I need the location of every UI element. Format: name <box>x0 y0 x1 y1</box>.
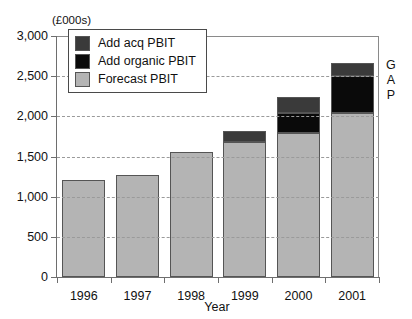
y-axis-tick-label: 1,500 <box>17 150 48 164</box>
y-axis-tick-label: 3,000 <box>17 29 48 43</box>
y-axis-tick <box>51 237 57 238</box>
bar-segment-forecast-pbit <box>116 175 159 277</box>
y-axis-tick-label: 500 <box>27 230 48 244</box>
bar-segment-forecast-pbit <box>223 142 266 277</box>
bar-segment-add-acq-pbit <box>277 97 320 113</box>
gridline <box>57 116 379 117</box>
y-axis-tick <box>51 116 57 117</box>
y-axis-tick-label: 2,000 <box>17 109 48 123</box>
bar-1998 <box>170 152 213 277</box>
y-axis-unit-caption: (£000s) <box>52 14 91 26</box>
gap-annotation-letter: P <box>387 88 395 103</box>
legend-item: Forecast PBIT <box>75 70 196 88</box>
x-axis-tick <box>379 277 380 283</box>
bar-segment-forecast-pbit <box>62 180 105 277</box>
x-axis-tick <box>325 277 326 283</box>
gridline <box>57 157 379 158</box>
legend-item: Add acq PBIT <box>75 34 196 52</box>
legend-swatch-icon <box>75 36 90 51</box>
x-axis-tick <box>272 277 273 283</box>
chart-title-cropped <box>0 0 412 5</box>
y-axis-tick <box>51 76 57 77</box>
legend-item: Add organic PBIT <box>75 52 196 70</box>
y-axis-tick <box>51 157 57 158</box>
bar-segment-forecast-pbit <box>170 152 213 277</box>
y-axis-tick-label: 1,000 <box>17 190 48 204</box>
x-axis-tick <box>57 277 58 283</box>
legend-item-label: Add organic PBIT <box>98 54 196 68</box>
x-axis-tick <box>164 277 165 283</box>
bar-1999 <box>223 131 266 277</box>
gridline <box>57 237 379 238</box>
legend-swatch-icon <box>75 72 90 87</box>
gridline <box>57 197 379 198</box>
bar-2001 <box>331 63 374 277</box>
bar-2000 <box>277 97 320 277</box>
bar-segment-add-acq-pbit <box>223 131 266 143</box>
legend-item-label: Forecast PBIT <box>98 72 178 86</box>
bar-segment-add-acq-pbit <box>331 63 374 76</box>
y-axis-tick-label: 2,500 <box>17 69 48 83</box>
legend-item-label: Add acq PBIT <box>98 36 175 50</box>
bar-1996 <box>62 180 105 277</box>
bar-1997 <box>116 175 159 277</box>
gap-annotation-letter: A <box>387 73 395 88</box>
x-axis-tick <box>111 277 112 283</box>
x-axis-tick <box>218 277 219 283</box>
bar-segment-forecast-pbit <box>331 113 374 277</box>
y-axis-tick <box>51 36 57 37</box>
gap-annotation: GAP <box>386 58 396 102</box>
bar-segment-add-organic-pbit <box>331 76 374 113</box>
legend-swatch-icon <box>75 54 90 69</box>
chart-legend: Add acq PBITAdd organic PBITForecast PBI… <box>68 29 207 93</box>
y-axis-tick <box>51 197 57 198</box>
gap-annotation-letter: G <box>386 58 396 73</box>
bar-segment-forecast-pbit <box>277 133 320 277</box>
y-axis-tick-label: 0 <box>41 270 48 284</box>
x-axis-title: Year <box>56 300 378 314</box>
chart-container: (£000s) 05001,0001,5002,0002,5003,000 19… <box>0 0 412 319</box>
